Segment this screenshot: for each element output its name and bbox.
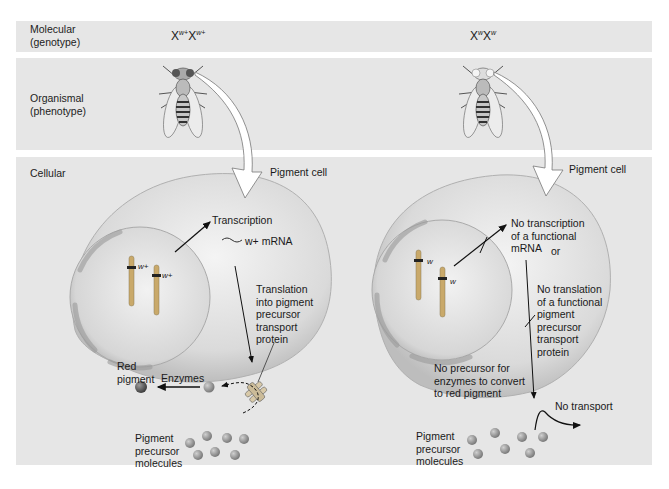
mutant-cell-label: Pigment cell [569, 163, 626, 176]
mutant-allele-label-1: w [427, 256, 433, 269]
allele-label-2: w+ [162, 270, 172, 283]
no-translation-label: No translation of a functional pigment p… [537, 283, 602, 358]
mrna-label: w+ mRNA [245, 235, 293, 248]
mutant-allele-label-2: w [450, 276, 456, 289]
or-label: or [551, 245, 560, 258]
red-pigment-label: Red pigment [117, 360, 154, 385]
mutant-precursor-label: Pigment precursor molecules [416, 430, 463, 468]
no-precursor-label: No precursor for enzymes to convert to r… [434, 362, 525, 400]
wild-type-precursor-molecules [185, 431, 249, 460]
transport-protein [242, 378, 270, 406]
enzymes-label: Enzymes [161, 372, 204, 385]
wild-type-precursor-label: Pigment precursor molecules [135, 432, 182, 470]
wild-type-cell-label: Pigment cell [270, 166, 327, 179]
no-transcription-label: No transcription of a functional mRNA [511, 217, 585, 255]
translation-label: Translation into pigment precursor trans… [256, 283, 313, 346]
allele-label-1: w+ [138, 261, 148, 274]
transcription-label: Transcription [212, 214, 272, 227]
no-transport-label: No transport [555, 400, 613, 413]
mutant-precursor-molecules [467, 428, 548, 459]
